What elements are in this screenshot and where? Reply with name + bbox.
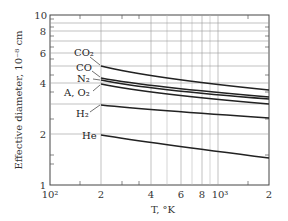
label-h2: H₂ — [76, 108, 89, 119]
x-tick-100: 10² — [42, 189, 59, 200]
y-tick-10: 10 — [34, 10, 47, 21]
x-axis-title: T, °K — [151, 204, 176, 215]
label-n2: N₂ — [77, 73, 90, 84]
chart: CO₂ CO N₂ A, O₂ H₂ He 1 2 4 6 8 10 Effec… — [0, 0, 288, 221]
x-tick-200: 2 — [98, 189, 104, 200]
y-tick-4: 4 — [40, 78, 46, 89]
plot-area: CO₂ CO N₂ A, O₂ H₂ He — [50, 15, 269, 185]
label-a-o2: A, O₂ — [63, 87, 90, 98]
y-tick-2: 2 — [40, 129, 46, 140]
y-axis: 1 2 4 6 8 10 Effective diameter, 10⁻⁸ cm — [13, 10, 47, 191]
x-tick-800: 8 — [199, 189, 205, 200]
x-axis: 10² 2 4 6 8 10³ 2 T, °K — [42, 189, 273, 215]
y-tick-6: 6 — [40, 48, 46, 59]
x-tick-2000: 2 — [266, 189, 272, 200]
y-tick-8: 8 — [40, 26, 46, 37]
x-tick-600: 6 — [178, 189, 184, 200]
x-tick-400: 4 — [148, 189, 154, 200]
label-co2: CO₂ — [74, 47, 94, 58]
label-he: He — [82, 130, 97, 141]
x-tick-1000: 10³ — [212, 189, 229, 200]
label-co: CO — [76, 62, 92, 73]
plot-frame — [50, 15, 269, 185]
y-axis-title: Effective diameter, 10⁻⁸ cm — [13, 30, 24, 170]
